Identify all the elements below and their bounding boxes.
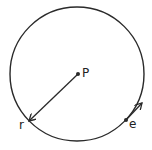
point-e-dot [124,118,128,122]
diagram-canvas: P e r [0,0,152,150]
point-p-label: P [82,66,89,80]
radius-label: r [19,118,24,132]
point-p-dot [76,72,80,76]
radius-vector-arrow [29,74,78,121]
point-e-label: e [129,117,136,131]
